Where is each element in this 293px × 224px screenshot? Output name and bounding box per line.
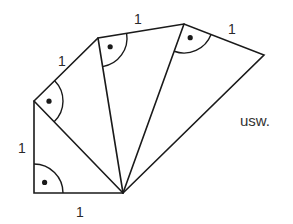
spoke-to-D (123, 24, 184, 193)
label-left-leg: 1 (18, 140, 26, 156)
label-leg-cd: 1 (134, 11, 142, 27)
label-bottom-leg: 1 (76, 204, 84, 220)
spokes (34, 24, 184, 193)
right-angle-dot-icon (108, 44, 113, 49)
outer-boundary (34, 24, 264, 193)
spoke-to-C (98, 38, 123, 193)
right-angle-dot-icon (42, 180, 47, 185)
outer-edges (34, 24, 264, 193)
right-angle-arc-A (34, 164, 63, 193)
diagram-canvas: 1 1 1 1 1 usw. (0, 0, 293, 224)
label-leg-de: 1 (228, 21, 236, 37)
continuation-text: usw. (240, 112, 270, 129)
right-angle-arc-C (103, 33, 127, 66)
label-leg-bc: 1 (58, 53, 66, 69)
spiral-of-theodorus-diagram: 1 1 1 1 1 usw. (0, 0, 293, 224)
right-angle-arc-B (54, 81, 63, 122)
right-angle-dot-icon (188, 35, 193, 40)
right-angle-dot-icon (46, 99, 51, 104)
